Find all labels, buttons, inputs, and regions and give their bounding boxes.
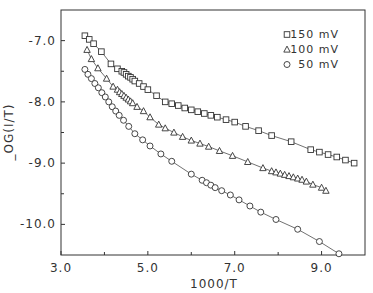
square-marker bbox=[145, 87, 151, 93]
square-marker bbox=[317, 149, 323, 155]
y-tick-label: -9.0 bbox=[29, 156, 56, 170]
triangle-marker bbox=[216, 147, 222, 153]
circle-marker bbox=[258, 209, 264, 215]
legend-label: 150 mV bbox=[290, 28, 339, 41]
y-axis-label: _OG(I/T) bbox=[2, 103, 16, 161]
triangle-marker bbox=[197, 140, 203, 146]
square-marker bbox=[325, 152, 331, 158]
triangle-marker bbox=[310, 181, 316, 187]
legend-label: 50 mV bbox=[298, 58, 339, 71]
square-marker bbox=[288, 139, 294, 145]
circle-marker bbox=[126, 123, 132, 129]
triangle-marker bbox=[188, 137, 194, 143]
square-marker bbox=[154, 93, 160, 99]
square-marker bbox=[175, 103, 181, 109]
circle-marker bbox=[116, 112, 122, 118]
square-marker bbox=[195, 109, 201, 115]
legend: 150 mV100 mV50 mV bbox=[284, 28, 339, 71]
triangle-marker bbox=[162, 125, 168, 131]
x-tick-label: 9.0 bbox=[311, 261, 333, 275]
square-marker bbox=[343, 157, 349, 163]
circle-marker bbox=[121, 117, 127, 123]
square-marker bbox=[162, 99, 168, 105]
triangle-marker bbox=[88, 56, 94, 62]
circle-marker bbox=[227, 192, 233, 198]
circle-marker bbox=[236, 197, 242, 203]
square-marker bbox=[243, 124, 249, 130]
y-tick-label: -8.0 bbox=[29, 95, 56, 109]
circle-marker bbox=[169, 158, 175, 164]
legend-item: 100 mV bbox=[284, 43, 339, 56]
triangle-marker bbox=[229, 152, 235, 158]
legend-item: 150 mV bbox=[284, 28, 339, 41]
axis-ticks: 3.05.07.09.0-7.0-8.0-9.0-10.0 bbox=[20, 34, 333, 275]
square-marker bbox=[334, 154, 340, 160]
circle-marker bbox=[284, 62, 290, 68]
circle-marker bbox=[140, 137, 146, 143]
circle-marker bbox=[273, 216, 279, 222]
circle-marker bbox=[336, 251, 342, 257]
triangle-marker bbox=[260, 165, 266, 171]
y-tick-label: -10.0 bbox=[20, 217, 56, 231]
square-marker bbox=[99, 49, 105, 55]
triangle-marker bbox=[205, 143, 211, 149]
circle-marker bbox=[158, 151, 164, 157]
circle-marker bbox=[247, 203, 253, 209]
square-marker bbox=[256, 128, 262, 134]
triangle-marker bbox=[140, 108, 146, 114]
square-marker bbox=[208, 113, 214, 119]
circle-marker bbox=[295, 226, 301, 232]
square-marker bbox=[269, 133, 275, 139]
square-marker bbox=[202, 111, 208, 117]
legend-item: 50 mV bbox=[284, 58, 339, 71]
x-tick-label: 7.0 bbox=[224, 261, 246, 275]
square-marker bbox=[182, 105, 188, 111]
square-marker bbox=[232, 119, 238, 125]
x-tick-label: 3.0 bbox=[50, 261, 72, 275]
square-marker bbox=[308, 147, 314, 153]
square-marker bbox=[169, 101, 175, 107]
square-marker bbox=[284, 32, 290, 38]
square-marker bbox=[108, 61, 114, 67]
triangle-marker bbox=[284, 46, 290, 52]
circle-marker bbox=[316, 239, 322, 245]
triangle-marker bbox=[171, 129, 177, 135]
triangle-marker bbox=[245, 159, 251, 165]
x-axis-label: 1000/T bbox=[190, 277, 238, 291]
triangle-marker bbox=[179, 133, 185, 139]
square-marker bbox=[91, 41, 97, 47]
x-tick-label: 5.0 bbox=[137, 261, 159, 275]
triangle-marker bbox=[156, 121, 162, 127]
chart: 3.05.07.09.0-7.0-8.0-9.0-10.0 150 mV100 … bbox=[0, 0, 373, 293]
square-marker bbox=[188, 107, 194, 113]
circle-marker bbox=[188, 171, 194, 177]
square-marker bbox=[351, 160, 357, 166]
circle-marker bbox=[219, 188, 225, 194]
triangle-marker bbox=[318, 184, 324, 190]
y-tick-label: -7.0 bbox=[29, 34, 56, 48]
triangle-marker bbox=[95, 65, 101, 71]
legend-label: 100 mV bbox=[290, 43, 339, 56]
square-marker bbox=[223, 117, 229, 123]
circle-marker bbox=[212, 185, 218, 191]
circle-marker bbox=[132, 131, 138, 137]
square-marker bbox=[215, 114, 221, 120]
circle-marker bbox=[147, 143, 153, 149]
triangle-marker bbox=[84, 46, 90, 52]
